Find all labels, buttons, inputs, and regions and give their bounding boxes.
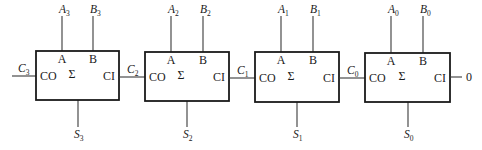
- port-b-label: B: [199, 53, 207, 67]
- carry-out-signal: C2: [127, 63, 139, 78]
- input-a-signal: A0: [387, 3, 399, 18]
- carry-out-signal-subscript: 3: [26, 68, 30, 77]
- input-b-signal-subscript: 2: [207, 9, 211, 18]
- port-co-label: CO: [149, 70, 166, 84]
- carry-out-signal-subscript: 1: [245, 70, 249, 79]
- carry-out-signal: C0: [347, 64, 359, 79]
- port-b-label: B: [419, 54, 427, 68]
- port-a-label: A: [387, 54, 396, 68]
- carry-out-signal-subscript: 2: [135, 69, 139, 78]
- sigma-symbol: Σ: [288, 69, 295, 83]
- full-adder-0: ABCOCIΣA0B0S0C0: [339, 3, 450, 143]
- port-b-label: B: [309, 53, 317, 67]
- input-b-signal-letter: B: [420, 3, 427, 15]
- sum-output-signal: S1: [293, 128, 303, 143]
- input-a-signal-subscript: 3: [66, 9, 70, 18]
- port-ci-label: CI: [434, 71, 446, 85]
- input-b-signal-letter: B: [200, 3, 207, 15]
- port-ci-label: CI: [103, 69, 115, 83]
- input-b-signal: B0: [420, 3, 431, 18]
- input-a-signal-subscript: 1: [285, 9, 289, 18]
- sum-output-signal-subscript: 0: [410, 134, 414, 143]
- input-a-signal-subscript: 2: [175, 9, 179, 18]
- port-a-label: A: [58, 52, 67, 66]
- input-a-signal-subscript: 0: [395, 9, 399, 18]
- sigma-symbol: Σ: [399, 69, 406, 83]
- input-b-signal: B1: [310, 3, 321, 18]
- carry-out-signal: C3: [18, 62, 30, 77]
- port-ci-label: CI: [213, 70, 225, 84]
- carry-out-signal-subscript: 0: [355, 70, 359, 79]
- port-co-label: CO: [259, 71, 276, 85]
- carry-out-signal: C1: [237, 64, 249, 79]
- carry-in-zero-label: 0: [466, 70, 472, 84]
- input-b-signal: B2: [200, 3, 211, 18]
- sigma-symbol: Σ: [69, 67, 76, 81]
- input-b-signal-letter: B: [90, 3, 97, 15]
- input-a-signal: A1: [277, 3, 289, 18]
- sum-output-signal: S3: [74, 128, 84, 143]
- sum-output-signal: S0: [404, 128, 414, 143]
- full-adder-3: ABCOCIΣA3B3S3C3: [12, 3, 119, 143]
- carry-in-constant: 0: [450, 70, 472, 84]
- sigma-symbol: Σ: [178, 68, 185, 82]
- sum-output-signal-subscript: 1: [299, 134, 303, 143]
- input-b-signal-subscript: 0: [427, 9, 431, 18]
- sum-output-signal: S2: [183, 128, 193, 143]
- input-b-signal-subscript: 1: [317, 9, 321, 18]
- input-b-signal: B3: [90, 3, 101, 18]
- sum-output-signal-subscript: 3: [80, 134, 84, 143]
- port-a-label: A: [167, 53, 176, 67]
- port-ci-label: CI: [323, 71, 335, 85]
- full-adder-2: ABCOCIΣA2B2S2C2: [119, 3, 229, 143]
- input-b-signal-letter: B: [310, 3, 317, 15]
- ripple-carry-adder-diagram: ABCOCIΣA3B3S3C3ABCOCIΣA2B2S2C2ABCOCIΣA1B…: [0, 0, 482, 150]
- input-a-signal: A2: [167, 3, 179, 18]
- sum-output-signal-subscript: 2: [189, 134, 193, 143]
- input-b-signal-subscript: 3: [97, 9, 101, 18]
- port-a-label: A: [277, 53, 286, 67]
- full-adder-1: ABCOCIΣA1B1S1C1: [229, 3, 339, 143]
- port-b-label: B: [89, 52, 97, 66]
- port-co-label: CO: [40, 69, 57, 83]
- port-co-label: CO: [369, 71, 386, 85]
- input-a-signal: A3: [58, 3, 70, 18]
